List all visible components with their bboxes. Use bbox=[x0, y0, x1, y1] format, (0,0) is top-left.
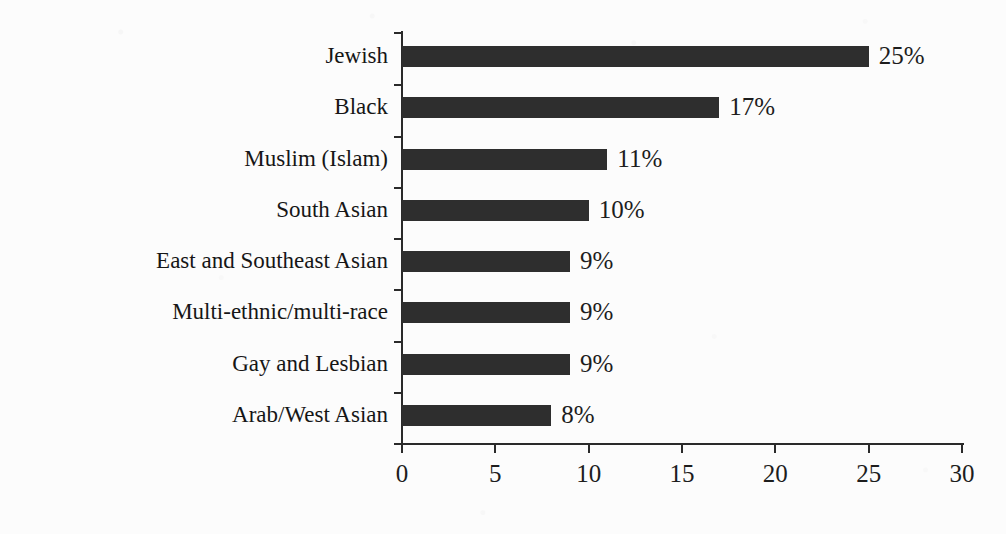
x-axis-tick bbox=[681, 443, 683, 453]
bar[interactable] bbox=[402, 46, 869, 67]
bar[interactable] bbox=[402, 251, 570, 272]
bar-row[interactable]: 11% bbox=[402, 136, 962, 187]
category-label: Multi-ethnic/multi-race bbox=[0, 297, 388, 327]
bar-row[interactable]: 8% bbox=[402, 392, 962, 443]
bar[interactable] bbox=[402, 149, 607, 170]
bar-value-label: 25% bbox=[879, 39, 925, 73]
category-label: Muslim (Islam) bbox=[0, 144, 388, 174]
category-label: East and Southeast Asian bbox=[0, 246, 388, 276]
bar[interactable] bbox=[402, 97, 719, 118]
bar-row[interactable]: 9% bbox=[402, 341, 962, 392]
x-axis-tick bbox=[494, 443, 496, 453]
bar-value-label: 9% bbox=[580, 347, 613, 381]
plot-area: 25%17%11%10%9%9%9%8% bbox=[402, 33, 962, 443]
x-axis-tick-label: 30 bbox=[932, 458, 992, 490]
bar-row[interactable]: 25% bbox=[402, 33, 962, 84]
x-axis-tick bbox=[774, 443, 776, 453]
x-axis-tick bbox=[868, 443, 870, 453]
bar-row[interactable]: 17% bbox=[402, 84, 962, 135]
x-axis-tick bbox=[588, 443, 590, 453]
x-axis-line bbox=[394, 443, 964, 445]
x-axis-tick-label: 25 bbox=[839, 458, 899, 490]
x-axis-tick-label: 20 bbox=[745, 458, 805, 490]
x-axis-tick-label: 15 bbox=[652, 458, 712, 490]
category-label: South Asian bbox=[0, 195, 388, 225]
x-axis-tick bbox=[961, 443, 963, 453]
bar-row[interactable]: 9% bbox=[402, 238, 962, 289]
bar-value-label: 11% bbox=[617, 142, 662, 176]
x-axis-tick-label: 10 bbox=[559, 458, 619, 490]
bar-value-label: 17% bbox=[729, 90, 775, 124]
bar-value-label: 9% bbox=[580, 244, 613, 278]
bar-value-label: 8% bbox=[561, 398, 594, 432]
bar[interactable] bbox=[402, 200, 589, 221]
bar[interactable] bbox=[402, 354, 570, 375]
bar-value-label: 9% bbox=[580, 295, 613, 329]
bar-chart: JewishBlackMuslim (Islam)South AsianEast… bbox=[0, 0, 1006, 534]
category-label: Black bbox=[0, 92, 388, 122]
bar[interactable] bbox=[402, 302, 570, 323]
category-label: Gay and Lesbian bbox=[0, 349, 388, 379]
x-axis-tick-label: 5 bbox=[465, 458, 525, 490]
category-label: Jewish bbox=[0, 41, 388, 71]
bar[interactable] bbox=[402, 405, 551, 426]
bar-value-label: 10% bbox=[599, 193, 645, 227]
x-axis-tick-label: 0 bbox=[372, 458, 432, 490]
bar-row[interactable]: 10% bbox=[402, 187, 962, 238]
category-label: Arab/West Asian bbox=[0, 400, 388, 430]
bar-row[interactable]: 9% bbox=[402, 289, 962, 340]
